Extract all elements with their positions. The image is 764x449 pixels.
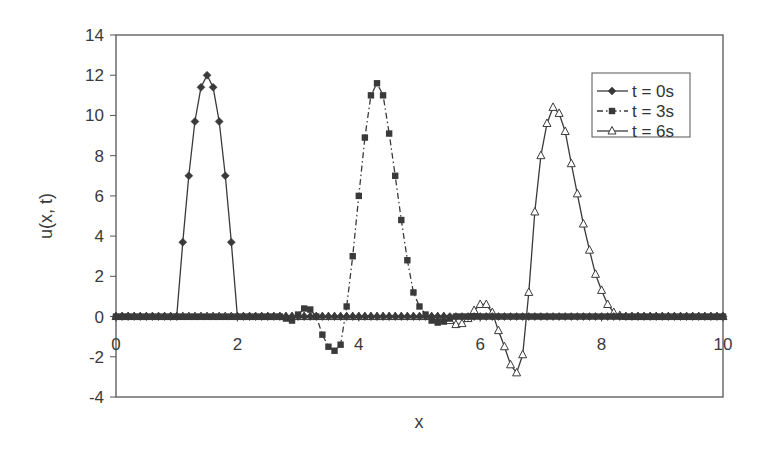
legend: t = 0st = 3st = 6s [592,73,690,141]
y-tick-label: 8 [95,147,104,166]
y-tick-label: 0 [95,308,104,327]
legend-label: t = 6s [632,122,674,141]
x-tick-label: 10 [714,335,733,354]
y-tick-label: -2 [89,348,104,367]
y-tick-label: 6 [95,187,104,206]
x-axis-title: x [415,412,424,432]
x-tick-label: 0 [111,335,120,354]
x-tick-label: 4 [354,335,363,354]
y-tick-label: -4 [89,388,104,407]
x-tick-label: 6 [475,335,484,354]
line-chart: -4-202468101214 0246810 x u(x, t) t = 0s… [0,0,764,449]
y-tick-label: 14 [85,26,104,45]
legend-label: t = 3s [632,102,674,121]
y-tick-label: 2 [95,267,104,286]
y-tick-label: 4 [95,227,104,246]
legend-label: t = 0s [632,82,674,101]
y-axis-title: u(x, t) [36,193,56,239]
y-tick-label: 10 [85,106,104,125]
y-tick-label: 12 [85,66,104,85]
x-tick-label: 8 [597,335,606,354]
x-tick-label: 2 [233,335,242,354]
